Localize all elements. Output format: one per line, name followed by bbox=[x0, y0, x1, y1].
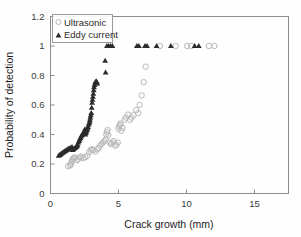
y-axis-ticks bbox=[51, 17, 55, 194]
data-series-eddy-current bbox=[56, 43, 202, 158]
data-point-eddy-current bbox=[196, 43, 202, 48]
svg-text:Ultrasonic: Ultrasonic bbox=[64, 17, 106, 28]
data-point-ultrasonic bbox=[143, 64, 148, 69]
x-axis-title: Crack growth (mm) bbox=[124, 218, 213, 230]
x-axis-tick-labels: 051015 bbox=[48, 198, 260, 209]
data-point-ultrasonic bbox=[137, 102, 142, 107]
legend-entry-ultrasonic: Ultrasonic bbox=[56, 17, 107, 28]
data-point-eddy-current bbox=[103, 69, 109, 74]
plot-canvas: 00.20.40.60.811.2 051015 Crack growth (m… bbox=[0, 0, 301, 237]
data-point-ultrasonic bbox=[206, 43, 211, 48]
y-tick-label: 0 bbox=[39, 188, 44, 199]
legend-entry-eddy-current: Eddy current bbox=[56, 29, 119, 40]
x-tick-label: 10 bbox=[181, 198, 192, 209]
y-axis-tick-labels: 00.20.40.60.811.2 bbox=[31, 11, 44, 199]
svg-text:Probability of detection: Probability of detection bbox=[3, 52, 15, 158]
x-tick-label: 5 bbox=[116, 198, 121, 209]
y-tick-label: 0.6 bbox=[31, 99, 44, 110]
scatter-chart-figure: 00.20.40.60.811.2 051015 Crack growth (m… bbox=[0, 0, 301, 237]
y-tick-label: 1 bbox=[39, 40, 44, 51]
legend: Ultrasonic Eddy current bbox=[53, 15, 119, 43]
data-point-ultrasonic bbox=[212, 43, 217, 48]
svg-text:Eddy current: Eddy current bbox=[64, 29, 118, 40]
y-tick-label: 0.8 bbox=[31, 70, 44, 81]
y-tick-label: 1.2 bbox=[31, 11, 44, 22]
y-tick-label: 0.2 bbox=[31, 158, 44, 169]
data-point-eddy-current bbox=[89, 105, 95, 110]
data-series-ultrasonic bbox=[65, 43, 217, 169]
data-point-ultrasonic bbox=[139, 93, 144, 98]
data-point-ultrasonic bbox=[141, 79, 146, 84]
data-point-eddy-current bbox=[88, 110, 94, 115]
x-axis-ticks bbox=[51, 190, 255, 194]
svg-text:Crack growth (mm): Crack growth (mm) bbox=[124, 218, 213, 230]
y-axis-title: Probability of detection bbox=[3, 52, 15, 158]
plot-frame bbox=[51, 17, 289, 194]
y-tick-label: 0.4 bbox=[31, 129, 44, 140]
data-point-eddy-current bbox=[102, 58, 108, 63]
x-tick-label: 0 bbox=[48, 198, 53, 209]
x-tick-label: 15 bbox=[249, 198, 260, 209]
